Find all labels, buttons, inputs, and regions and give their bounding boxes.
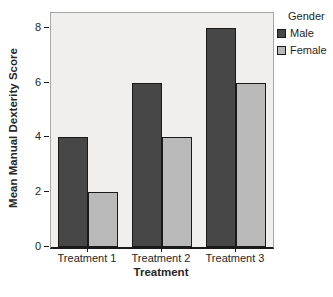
y-tick-label: 8 xyxy=(17,20,41,34)
legend-item-male: Male xyxy=(277,27,327,39)
bar-female-treatment-2 xyxy=(162,137,192,247)
y-tick-label: 0 xyxy=(17,239,41,253)
bar-male-treatment-1 xyxy=(58,137,88,247)
bar-chart-figure: Mean Manual Dexterity Score 02468 Treatm… xyxy=(0,0,333,297)
y-tick-mark xyxy=(44,27,49,28)
legend-item-female: Female xyxy=(277,44,327,56)
legend-items: MaleFemale xyxy=(277,27,327,56)
legend: Gender MaleFemale xyxy=(277,10,327,56)
bar-female-treatment-3 xyxy=(236,83,266,247)
x-tick-label-treatment-1: Treatment 1 xyxy=(45,252,129,265)
bar-female-treatment-1 xyxy=(88,192,118,247)
y-tick-mark xyxy=(44,136,49,137)
bar-male-treatment-2 xyxy=(132,83,162,247)
x-tick-label-treatment-2: Treatment 2 xyxy=(119,252,203,265)
legend-label-female: Female xyxy=(290,44,327,56)
legend-swatch-female-icon xyxy=(277,46,286,55)
x-tick-label-treatment-3: Treatment 3 xyxy=(193,252,277,265)
y-tick-mark xyxy=(44,82,49,83)
y-tick-label: 2 xyxy=(17,184,41,198)
x-axis-title: Treatment xyxy=(50,266,272,278)
bar-male-treatment-3 xyxy=(206,28,236,247)
y-tick-mark xyxy=(44,191,49,192)
legend-title: Gender xyxy=(288,10,327,22)
legend-swatch-male-icon xyxy=(277,29,286,38)
legend-label-male: Male xyxy=(290,27,314,39)
y-axis-title: Mean Manual Dexterity Score xyxy=(7,18,19,238)
y-tick-label: 4 xyxy=(17,129,41,143)
y-tick-mark xyxy=(44,246,49,247)
plot-area xyxy=(50,12,274,249)
y-tick-label: 6 xyxy=(17,75,41,89)
